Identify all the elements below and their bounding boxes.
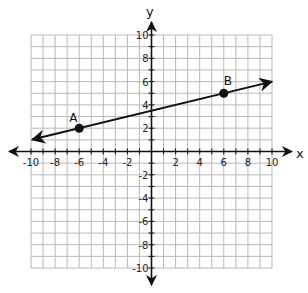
y-tick-label: -2 [139,170,149,181]
y-tick-label: 10 [136,30,149,41]
x-tick-labels: -10-8-6-4-2246810 [23,157,279,168]
axes [9,22,292,285]
coordinate-plane: -10-8-6-4-2246810 -10-8-6-4-2246810 x y … [0,0,308,293]
x-tick-label: -10 [23,157,39,168]
x-tick-label: 6 [221,157,227,168]
y-tick-label: -4 [139,193,149,204]
point-label: B [224,74,232,88]
x-tick-label: -4 [98,157,108,168]
point-b [219,89,228,98]
x-tick-label: 10 [266,157,279,168]
y-tick-label: 8 [142,53,148,64]
y-tick-label: 6 [142,77,148,88]
x-tick-label: -6 [74,157,84,168]
x-tick-label: -2 [122,157,132,168]
x-tick-label: -8 [50,157,60,168]
x-tick-label: 4 [197,157,203,168]
y-tick-label: 4 [142,100,148,111]
x-tick-label: 8 [245,157,251,168]
x-tick-label: 2 [172,157,178,168]
y-axis-label: y [146,4,154,19]
y-tick-label: -6 [139,216,149,227]
y-tick-label: -10 [132,263,148,274]
y-tick-label: -8 [139,240,149,251]
point-label: A [69,111,78,125]
x-axis-label: x [296,146,304,161]
y-tick-label: 2 [142,123,148,134]
